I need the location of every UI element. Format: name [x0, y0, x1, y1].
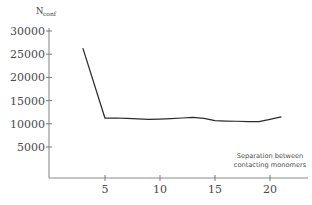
- y-tick-label-20000: 20000: [10, 71, 45, 84]
- y-axis-label-subscript: conf: [43, 10, 57, 17]
- x-tick-label-20: 20: [263, 183, 277, 196]
- x-tick-label-5: 5: [102, 183, 109, 196]
- line-chart: N conf 30000 25000 20000 15000 10000 500…: [0, 0, 312, 205]
- x-axis-caption-line-1: Separation between: [237, 152, 303, 160]
- y-tick-label-5000: 5000: [17, 141, 45, 154]
- chart-container: N conf 30000 25000 20000 15000 10000 500…: [0, 0, 312, 205]
- y-tick-label-10000: 10000: [10, 118, 45, 131]
- y-tick-label-25000: 25000: [10, 48, 45, 61]
- y-axis-tick-labels: 30000 25000 20000 15000 10000 5000: [10, 25, 45, 154]
- y-axis-label: N conf: [36, 6, 57, 17]
- x-tick-label-10: 10: [153, 183, 167, 196]
- x-axis-caption-line-2: contacting monomers: [234, 161, 307, 169]
- x-tick-label-15: 15: [208, 183, 222, 196]
- data-series-line: [83, 49, 281, 122]
- x-axis-caption: Separation between contacting monomers: [234, 152, 307, 169]
- x-axis-tick-labels: 5 10 15 20: [102, 183, 278, 196]
- y-tick-label-30000: 30000: [10, 25, 45, 38]
- y-tick-label-15000: 15000: [10, 95, 45, 108]
